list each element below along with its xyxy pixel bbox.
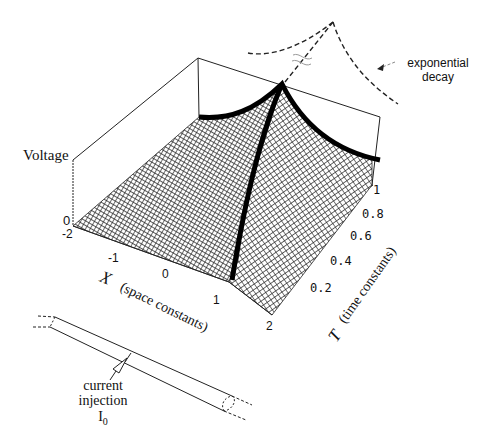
t-tick-0.8: 0.8 xyxy=(362,208,384,220)
cable xyxy=(33,316,252,420)
t-tick-1: 1 xyxy=(373,184,380,196)
z-axis-tick-0: 0 xyxy=(63,214,70,227)
exponential-decay-label: exponential decay xyxy=(403,56,473,85)
t-tick-0.4: 0.4 xyxy=(330,255,352,267)
x-tick-0: 0 xyxy=(162,268,169,280)
t-tick-0.6: 0.6 xyxy=(350,230,372,242)
current-injection-label: current injection I0 xyxy=(72,378,134,427)
x-tick-2: 2 xyxy=(266,320,273,332)
x-tick-1: 1 xyxy=(213,294,220,306)
t-tick-0.2: 0.2 xyxy=(310,282,332,294)
injection-symbol: I0 xyxy=(72,409,134,427)
z-axis-label: Voltage xyxy=(23,148,69,163)
x-tick-minus2: -2 xyxy=(62,228,73,240)
x-tick-minus1: -1 xyxy=(108,252,119,264)
